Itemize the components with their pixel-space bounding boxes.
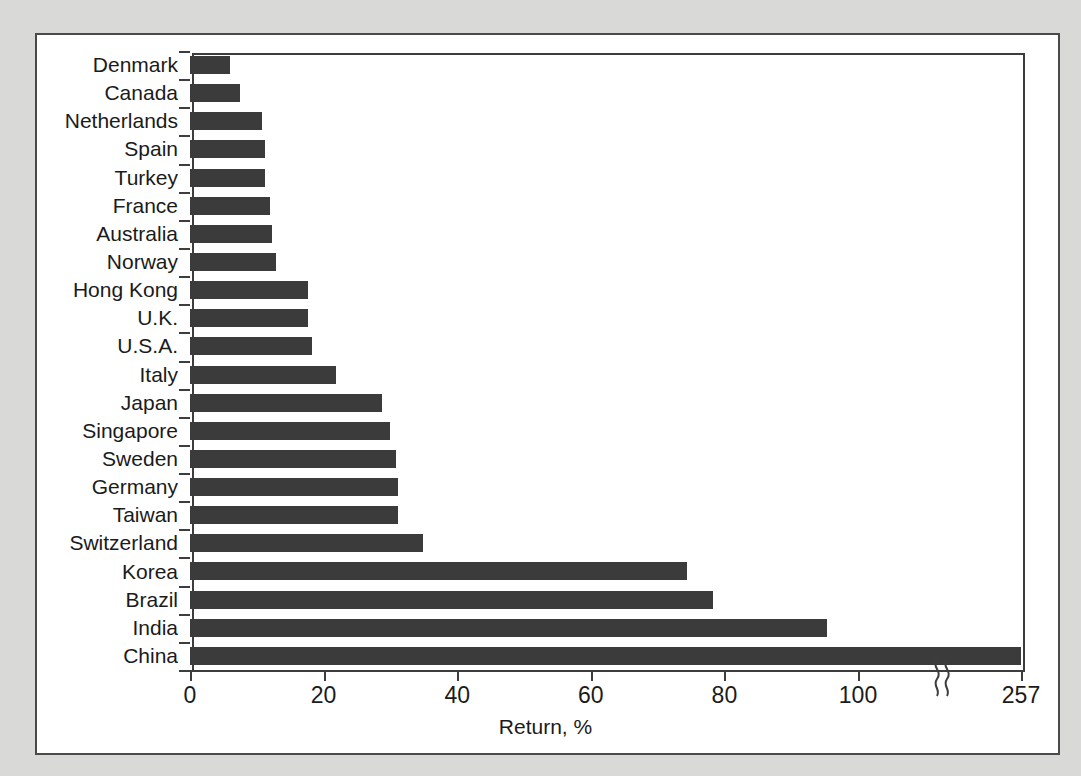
x-axis-tick: [724, 670, 726, 681]
bar: [190, 84, 240, 102]
bar-row: [190, 248, 1021, 276]
x-axis-title: Return, %: [0, 716, 1081, 737]
bar: [190, 562, 687, 580]
bar: [190, 253, 276, 271]
y-axis-tick: [179, 642, 190, 644]
x-axis-tick-label: 100: [839, 684, 877, 707]
figure-root: DenmarkCanadaNetherlandsSpainTurkeyFranc…: [0, 0, 1081, 776]
bar: [190, 197, 270, 215]
y-axis-label: Turkey: [0, 167, 178, 188]
bar-row: [190, 192, 1021, 220]
axis-break-squiggle-icon: [925, 655, 965, 699]
bar: [190, 534, 423, 552]
y-axis-label: Spain: [0, 138, 178, 159]
bar: [190, 422, 390, 440]
x-axis-title-text: Return, %: [499, 716, 592, 737]
y-axis-tick: [179, 361, 190, 363]
y-axis-tick: [179, 670, 190, 672]
y-axis-tick: [179, 417, 190, 419]
x-axis-tick: [1021, 670, 1023, 681]
y-axis-label: Sweden: [0, 448, 178, 469]
bar-row: [190, 529, 1021, 557]
bar-row: [190, 79, 1021, 107]
bar: [190, 394, 382, 412]
x-axis-tick: [591, 670, 593, 681]
y-axis-tick: [179, 586, 190, 588]
y-axis-tick: [179, 473, 190, 475]
y-axis-tick: [179, 276, 190, 278]
x-axis-tick-label: 80: [712, 684, 738, 707]
y-axis-label: Canada: [0, 82, 178, 103]
bar-row: [190, 361, 1021, 389]
bar-row: [190, 164, 1021, 192]
y-axis-label: China: [0, 645, 178, 666]
y-axis-label: Taiwan: [0, 504, 178, 525]
bar: [190, 591, 713, 609]
x-axis-tick-label: 20: [311, 684, 337, 707]
y-axis-tick: [179, 445, 190, 447]
bar-row: [190, 304, 1021, 332]
x-axis-tick-label: 0: [184, 684, 197, 707]
bar: [190, 140, 265, 158]
bar: [190, 112, 262, 130]
y-axis-label: Australia: [0, 223, 178, 244]
bar: [190, 450, 396, 468]
bar: [190, 506, 398, 524]
bar: [190, 225, 272, 243]
bar-row: [190, 642, 1021, 670]
bar-row: [190, 276, 1021, 304]
bar-row: [190, 417, 1021, 445]
bar: [190, 281, 308, 299]
bar: [190, 366, 336, 384]
x-axis-tick-label: 257: [1002, 684, 1040, 707]
y-axis-tick: [179, 192, 190, 194]
x-axis-tick: [190, 670, 192, 681]
bar: [190, 478, 398, 496]
bar: [190, 309, 308, 327]
y-axis-tick: [179, 135, 190, 137]
y-axis-label: U.S.A.: [0, 335, 178, 356]
y-axis-label: U.K.: [0, 307, 178, 328]
y-axis-tick: [179, 79, 190, 81]
x-axis-tick: [457, 670, 459, 681]
y-axis-label: France: [0, 195, 178, 216]
bar-row: [190, 586, 1021, 614]
bar: [190, 619, 827, 637]
y-axis-label: Norway: [0, 251, 178, 272]
bar-row: [190, 557, 1021, 585]
bar-row: [190, 51, 1021, 79]
y-axis-label: Netherlands: [0, 110, 178, 131]
y-axis-label: Germany: [0, 476, 178, 497]
y-axis-label: Hong Kong: [0, 279, 178, 300]
y-axis-tick: [179, 501, 190, 503]
x-axis-tick-label: 60: [578, 684, 604, 707]
bar: [190, 56, 230, 74]
bar: [190, 169, 265, 187]
bar: [190, 647, 1021, 665]
y-axis-tick: [179, 389, 190, 391]
bar-row: [190, 220, 1021, 248]
y-axis-label: Japan: [0, 392, 178, 413]
bar-row: [190, 445, 1021, 473]
bar: [190, 337, 312, 355]
bar-row: [190, 614, 1021, 642]
bar-row: [190, 107, 1021, 135]
y-axis-tick: [179, 304, 190, 306]
y-axis-category-labels: DenmarkCanadaNetherlandsSpainTurkeyFranc…: [0, 0, 180, 776]
x-axis-tick-label: 40: [444, 684, 470, 707]
y-axis-label: Italy: [0, 364, 178, 385]
y-axis-tick: [179, 557, 190, 559]
x-axis-tick: [324, 670, 326, 681]
y-axis-label: Switzerland: [0, 532, 178, 553]
y-axis-tick: [179, 220, 190, 222]
bar-row: [190, 389, 1021, 417]
y-axis-tick: [179, 164, 190, 166]
bar-row: [190, 135, 1021, 163]
y-axis-tick: [179, 529, 190, 531]
y-axis-label: Brazil: [0, 589, 178, 610]
y-axis-label: India: [0, 617, 178, 638]
y-axis-tick: [179, 107, 190, 109]
y-axis-label: Korea: [0, 561, 178, 582]
y-axis-tick: [179, 614, 190, 616]
y-axis-tick: [179, 248, 190, 250]
